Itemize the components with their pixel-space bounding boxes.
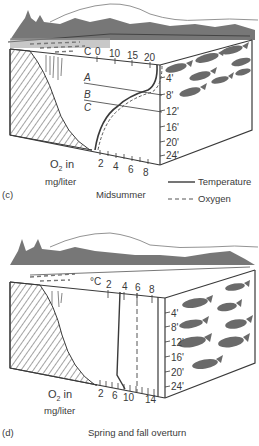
fish-group — [177, 280, 253, 371]
fish-icon — [178, 83, 207, 99]
oxygen-tick: 8 — [143, 168, 149, 178]
depth-ticks — [160, 77, 165, 156]
oxygen-ticks — [100, 150, 148, 164]
temperature-ticks — [97, 56, 150, 68]
depth-tick: 24' — [171, 382, 184, 392]
temperature-unit: C — [84, 47, 91, 57]
fish-icon — [191, 355, 223, 371]
depth-tick: 16' — [166, 123, 179, 133]
oxygen-axis-label: O2 in — [50, 159, 74, 172]
fish-icon — [216, 299, 242, 313]
depth-tick: 12' — [171, 338, 184, 348]
fish-icon — [211, 72, 234, 85]
panel-title-overturn: Spring and fall overturn — [88, 428, 186, 438]
oxygen-tick: 14 — [145, 395, 156, 405]
oxygen-tick: 2 — [98, 389, 104, 399]
fish-icon — [217, 333, 250, 349]
depth-tick: 20' — [171, 368, 184, 378]
panel-label-d: (d) — [2, 428, 14, 438]
depth-tick: 8' — [166, 91, 173, 101]
panel-midsummer: C 0 10 15 20 A B C 4' 8' 12' 16' 20' 24'… — [0, 0, 259, 225]
lake-bottom-sediment — [10, 282, 97, 385]
temperature-line — [117, 292, 125, 389]
depth-tick: 16' — [171, 353, 184, 363]
fish-group — [164, 42, 251, 99]
temp-tick: 2 — [106, 280, 112, 290]
landscape-background — [8, 4, 258, 52]
landscape-background — [10, 233, 258, 281]
oxygen-axis-unit: mg/liter — [45, 177, 76, 187]
fish-icon — [234, 67, 251, 77]
oxygen-axis-label: O2 in — [48, 389, 72, 402]
depth-tick: 20' — [166, 138, 179, 148]
depth-tick: 4' — [166, 74, 173, 84]
oxygen-axis-unit: mg/liter — [44, 406, 75, 416]
panel-spring-fall-overturn: °C 2 4 6 8 4' 8' 12' 16' 20' 24' 2 6 10 … — [0, 225, 259, 446]
depth-tick: 8' — [171, 323, 178, 333]
fish-icon — [181, 295, 213, 310]
depth-tick: 12' — [166, 107, 179, 117]
temp-tick: 6 — [135, 283, 141, 293]
fish-icon — [224, 315, 253, 330]
oxygen-tick: 6 — [112, 391, 118, 401]
depth-ticks — [165, 312, 170, 387]
oxygen-tick: 6 — [128, 165, 134, 175]
temp-tick: 4 — [122, 282, 128, 292]
legend-temperature-label: Temperature — [198, 177, 251, 187]
oxygen-tick: 2 — [98, 159, 104, 169]
temp-tick: 8 — [149, 285, 155, 295]
lake-cross-section-overturn — [0, 225, 259, 446]
temp-tick: 0 — [95, 47, 101, 57]
oxygen-tick: 4 — [113, 162, 119, 172]
temp-tick: 20 — [144, 53, 155, 63]
temp-tick: 10 — [109, 49, 120, 59]
aquatic-plants — [52, 291, 62, 307]
aquatic-plants — [46, 55, 62, 80]
depth-tick: 4' — [171, 309, 178, 319]
temperature-curve — [95, 65, 157, 150]
layer-label-b: B — [84, 90, 91, 100]
fish-icon — [225, 280, 250, 292]
lake-bottom-sediment — [10, 49, 92, 150]
panel-label-c: (c) — [2, 190, 13, 200]
panel-title-midsummer: Midsummer — [96, 190, 146, 200]
fish-icon — [178, 316, 209, 330]
fish-icon — [230, 56, 251, 68]
oxygen-curve — [98, 66, 162, 150]
temp-tick: 15 — [127, 51, 138, 61]
legend-oxygen-label: Oxygen — [198, 194, 231, 204]
layer-label-c: C — [84, 103, 91, 113]
oxygen-tick: 10 — [123, 393, 134, 403]
depth-tick: 24' — [166, 151, 179, 161]
temperature-unit: °C — [90, 277, 101, 287]
layer-label-a: A — [84, 73, 91, 83]
